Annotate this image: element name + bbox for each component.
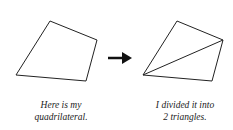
quadrilateral-left	[16, 21, 97, 81]
left-caption: Here is my quadrilateral.	[6, 99, 116, 123]
right-caption: I divided it into 2 triangles.	[130, 99, 233, 123]
right-arrow-icon	[108, 52, 132, 64]
left-caption-line-1: Here is my	[6, 99, 116, 111]
diagonal-line	[143, 40, 223, 75]
right-caption-line-2: 2 triangles.	[130, 111, 233, 123]
right-caption-line-1: I divided it into	[130, 99, 233, 111]
left-caption-line-2: quadrilateral.	[6, 111, 116, 123]
quadrilateral-right	[143, 21, 223, 81]
